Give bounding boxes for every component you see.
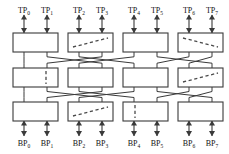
switch-box <box>123 33 168 52</box>
interconnection-network-figure: TP0TP1TP2TP3TP4TP5TP6TP7 BP0BP1BP2BP3BP4… <box>0 0 229 154</box>
port-label-base: BP <box>73 139 83 148</box>
switch-boxes-group <box>13 33 223 121</box>
bottom-port-label-bp2: BP2 <box>73 139 86 148</box>
lower-shuffle-link <box>79 87 134 102</box>
lower-shuffle-link <box>189 87 212 102</box>
top-port-arrows-group <box>24 15 212 33</box>
top-port-label-tp5: TP5 <box>151 6 163 15</box>
port-label-index: 1 <box>51 143 54 149</box>
port-label-index: 6 <box>192 10 195 16</box>
switch-box <box>123 68 168 87</box>
port-label-base: BP <box>18 139 28 148</box>
top-port-label-tp4: TP4 <box>128 6 140 15</box>
port-label-index: 4 <box>138 143 141 149</box>
top-port-label-tp3: TP3 <box>96 6 108 15</box>
switch-box <box>13 68 58 87</box>
switch-box <box>123 102 168 121</box>
port-label-index: 0 <box>27 10 30 16</box>
port-label-base: TP <box>73 6 82 15</box>
port-label-base: BP <box>206 139 216 148</box>
top-port-label-tp0: TP0 <box>18 6 30 15</box>
port-label-base: TP <box>41 6 50 15</box>
switch-box <box>13 33 58 52</box>
port-label-base: BP <box>183 139 193 148</box>
port-label-base: TP <box>128 6 137 15</box>
port-label-index: 5 <box>160 10 163 16</box>
port-label-base: TP <box>206 6 215 15</box>
port-label-base: BP <box>96 139 106 148</box>
upper-shuffle-link <box>79 52 134 68</box>
port-label-base: BP <box>151 139 161 148</box>
port-label-index: 7 <box>215 10 218 16</box>
switch-box <box>178 102 223 121</box>
lower-link-shuffle-group <box>24 87 212 102</box>
port-label-base: TP <box>96 6 105 15</box>
switch-box <box>13 102 58 121</box>
port-label-index: 4 <box>137 10 140 16</box>
network-diagram-canvas <box>0 0 229 154</box>
bottom-port-label-bp5: BP5 <box>151 139 164 148</box>
port-label-index: 7 <box>216 143 219 149</box>
bottom-port-label-bp4: BP4 <box>128 139 141 148</box>
port-label-base: BP <box>41 139 51 148</box>
top-port-label-tp2: TP2 <box>73 6 85 15</box>
upper-shuffle-link <box>47 52 102 68</box>
upper-shuffle-link <box>189 52 212 68</box>
port-label-index: 3 <box>106 143 109 149</box>
port-label-base: TP <box>151 6 160 15</box>
bottom-port-label-bp3: BP3 <box>96 139 109 148</box>
bottom-port-arrows-group <box>24 121 212 136</box>
port-label-index: 5 <box>161 143 164 149</box>
upper-shuffle-link <box>157 52 212 68</box>
top-port-label-tp6: TP6 <box>183 6 195 15</box>
lower-shuffle-link <box>47 87 102 102</box>
port-label-base: TP <box>183 6 192 15</box>
bottom-port-label-bp6: BP6 <box>183 139 196 148</box>
bottom-port-label-bp0: BP0 <box>18 139 31 148</box>
top-port-label-tp1: TP1 <box>41 6 53 15</box>
port-label-index: 1 <box>50 10 53 16</box>
port-label-index: 6 <box>193 143 196 149</box>
port-label-index: 2 <box>83 143 86 149</box>
lower-shuffle-link <box>157 87 212 102</box>
top-port-label-tp7: TP7 <box>206 6 218 15</box>
port-label-base: TP <box>18 6 27 15</box>
port-label-base: BP <box>128 139 138 148</box>
port-label-index: 3 <box>105 10 108 16</box>
upper-link-shuffle-group <box>24 52 212 68</box>
port-label-index: 2 <box>82 10 85 16</box>
bottom-port-label-bp7: BP7 <box>206 139 219 148</box>
port-label-index: 0 <box>28 143 31 149</box>
switch-box <box>68 68 113 87</box>
bottom-port-label-bp1: BP1 <box>41 139 54 148</box>
